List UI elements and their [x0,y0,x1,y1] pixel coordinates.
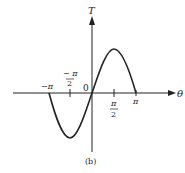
x-axis-arrow-icon [168,90,176,96]
tick-label-neg-half-pi-denominator: 2 [67,79,72,88]
figure-caption: (b) [85,157,96,166]
diagram-canvas: T θ 0 −π − π 2 π 2 π (b) [0,0,185,173]
y-axis-label: T [88,5,96,16]
tick-label-neg-pi: −π [41,82,54,91]
x-axis-label: θ [177,88,183,99]
tick-label-half-pi-numerator: π [110,99,117,108]
tick-label-neg-half-pi-numerator: − π [63,69,78,78]
y-axis-arrow-icon [89,16,95,25]
tick-label-pi: π [132,97,139,106]
origin-label: 0 [83,83,89,93]
tick-label-half-pi-denominator: 2 [111,110,116,119]
